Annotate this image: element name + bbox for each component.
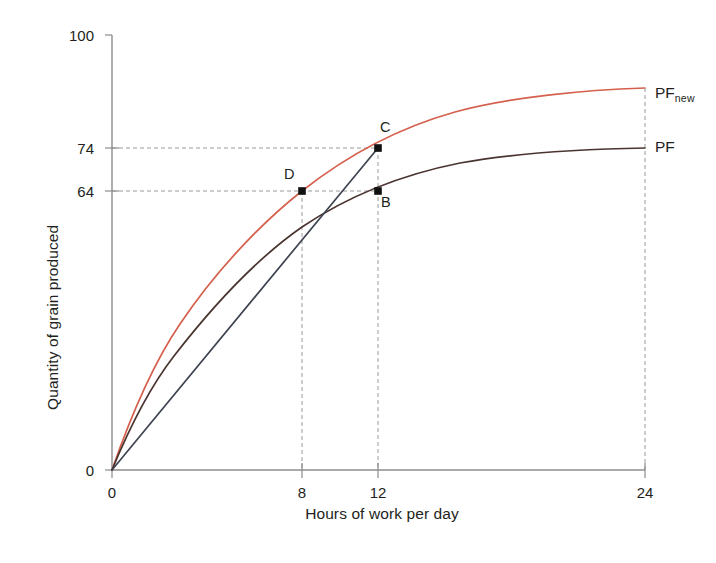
x-tick-label-12: 12 xyxy=(370,484,387,501)
x-axis-title: Hours of work per day xyxy=(0,505,716,523)
y-tick-label-100: 100 xyxy=(48,27,94,44)
axes xyxy=(105,35,645,478)
y-axis-title: Quantity of grain produced xyxy=(44,225,62,410)
point-label-c: C xyxy=(380,119,390,135)
curve-label-pf-new: PFnew xyxy=(655,84,695,102)
y-tick-label-64: 64 xyxy=(48,183,94,200)
point-d-marker xyxy=(298,187,306,195)
production-function-chart xyxy=(0,0,716,563)
x-tick-label-0: 0 xyxy=(108,484,116,501)
curve-label-pf: PF xyxy=(655,138,675,156)
ray-to-c-line xyxy=(112,148,378,470)
chart-figure: 100 74 64 0 0 8 12 24 C B D PFnew PF Qua… xyxy=(0,0,716,563)
x-tick-label-24: 24 xyxy=(637,484,654,501)
point-label-b: B xyxy=(381,194,391,210)
data-points xyxy=(298,144,382,195)
y-tick-label-74: 74 xyxy=(48,140,94,157)
curve-label-pf-new-text: PF xyxy=(655,84,675,101)
curve-label-pf-new-subscript: new xyxy=(675,92,695,104)
point-c-marker xyxy=(374,144,382,152)
point-label-d: D xyxy=(284,166,294,182)
y-tick-label-0: 0 xyxy=(48,462,94,479)
x-tick-label-8: 8 xyxy=(298,484,306,501)
